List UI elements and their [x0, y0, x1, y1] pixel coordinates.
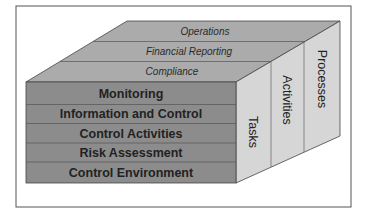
front-row-monitoring: Monitoring	[99, 87, 164, 101]
front-row-information-and-control: Information and Control	[60, 107, 202, 121]
top-row-compliance: Compliance	[146, 66, 199, 77]
top-row-financial-reporting: Financial Reporting	[146, 46, 233, 57]
front-row-control-environment: Control Environment	[69, 166, 194, 180]
right-col-processes: Processes	[315, 50, 329, 108]
front-row-risk-assessment: Risk Assessment	[79, 146, 183, 160]
right-col-tasks: Tasks	[246, 116, 260, 148]
front-row-control-activities: Control Activities	[79, 127, 182, 141]
coso-cube-diagram: Operations Financial Reporting Complianc…	[0, 0, 369, 215]
top-row-operations: Operations	[181, 26, 230, 37]
right-col-activities: Activities	[280, 75, 294, 124]
front-face: Monitoring Information and Control Contr…	[26, 82, 236, 183]
